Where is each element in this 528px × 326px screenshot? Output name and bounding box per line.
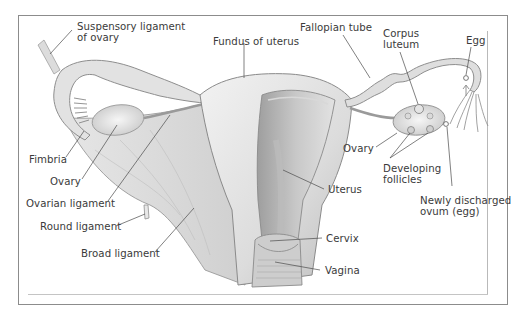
label-developing-follicles-line1: Developing bbox=[383, 163, 441, 174]
anatomy-figure: Suspensory ligament of ovary Fundus of u… bbox=[0, 0, 528, 326]
label-suspensory-ligament: Suspensory ligament of ovary bbox=[77, 21, 185, 43]
discharged-ovum-dot bbox=[444, 122, 449, 127]
label-corpus-luteum-line2: luteum bbox=[383, 39, 419, 50]
corpus-luteum-dot bbox=[415, 105, 424, 114]
label-developing-follicles: Developing follicles bbox=[383, 163, 441, 185]
label-round-ligament: Round ligament bbox=[40, 221, 121, 232]
label-newly-discharged-ovum-line2: ovum (egg) bbox=[420, 206, 511, 217]
label-newly-discharged-ovum: Newly discharged ovum (egg) bbox=[420, 195, 511, 217]
label-suspensory-ligament-line1: Suspensory ligament bbox=[77, 21, 185, 32]
label-fundus-of-uterus: Fundus of uterus bbox=[213, 36, 299, 47]
suspensory-ligament-shape bbox=[38, 40, 60, 74]
label-ovary-right: Ovary bbox=[343, 143, 374, 154]
right-ovary-shape bbox=[350, 102, 448, 137]
label-broad-ligament: Broad ligament bbox=[81, 248, 160, 259]
label-cervix: Cervix bbox=[326, 233, 359, 244]
label-suspensory-ligament-line2: of ovary bbox=[77, 32, 185, 43]
label-ovary-left: Ovary bbox=[50, 176, 81, 187]
label-ovarian-ligament: Ovarian ligament bbox=[26, 198, 115, 209]
label-egg: Egg bbox=[466, 35, 486, 46]
label-newly-discharged-ovum-line1: Newly discharged bbox=[420, 195, 511, 206]
label-developing-follicles-line2: follicles bbox=[383, 174, 441, 185]
label-corpus-luteum: Corpus luteum bbox=[383, 28, 419, 50]
reproductive-system-illustration bbox=[0, 0, 528, 326]
label-vagina: Vagina bbox=[325, 265, 360, 276]
label-fallopian-tube: Fallopian tube bbox=[300, 22, 372, 33]
label-corpus-luteum-line1: Corpus bbox=[383, 28, 419, 39]
label-fimbria: Fimbria bbox=[29, 154, 67, 165]
label-uterus: Uterus bbox=[328, 184, 362, 195]
